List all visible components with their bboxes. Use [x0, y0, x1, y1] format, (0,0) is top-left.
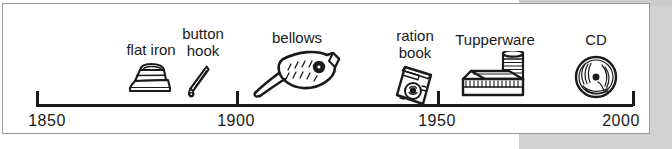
timeline-axis [36, 104, 633, 107]
axis-label-1950: 1950 [418, 112, 456, 130]
timeline-item-label-flat-iron: flat iron [124, 42, 178, 59]
timeline-item-button-hook: button hook [182, 26, 224, 102]
tupperware-icon [453, 51, 537, 107]
timeline-item-label-tupperware: Tupperware [453, 32, 537, 49]
timeline-item-label-cd: CD [571, 32, 621, 49]
timeline-item-label-ration-book: ration book [392, 28, 438, 62]
figure-content: 1850 1900 1950 2000 flat iron [3, 4, 649, 133]
timeline-item-label-bellows: bellows [251, 30, 343, 47]
timeline-item-ration-book: ration book [392, 28, 438, 110]
axis-tick-1900 [236, 91, 239, 106]
figure-frame: 1850 1900 1950 2000 flat iron [2, 3, 650, 134]
timeline-figure-page: 1850 1900 1950 2000 flat iron [0, 0, 672, 149]
timeline-item-label-button-hook: button hook [182, 26, 224, 60]
timeline-item-bellows: bellows [251, 30, 343, 99]
timeline-item-cd: CD [571, 32, 621, 101]
axis-tick-1850 [36, 91, 39, 106]
axis-label-2000: 2000 [602, 112, 640, 130]
bellows-icon [251, 49, 343, 99]
axis-label-1850: 1850 [28, 112, 66, 130]
timeline-item-flat-iron: flat iron [124, 42, 178, 95]
ration-book-icon [392, 64, 438, 110]
cd-icon [571, 51, 621, 101]
axis-label-1900: 1900 [217, 112, 255, 130]
timeline-item-tupperware: Tupperware [453, 32, 537, 107]
button-hook-icon [182, 62, 224, 102]
axis-tick-2000 [632, 91, 635, 106]
flat-iron-icon [124, 61, 178, 95]
